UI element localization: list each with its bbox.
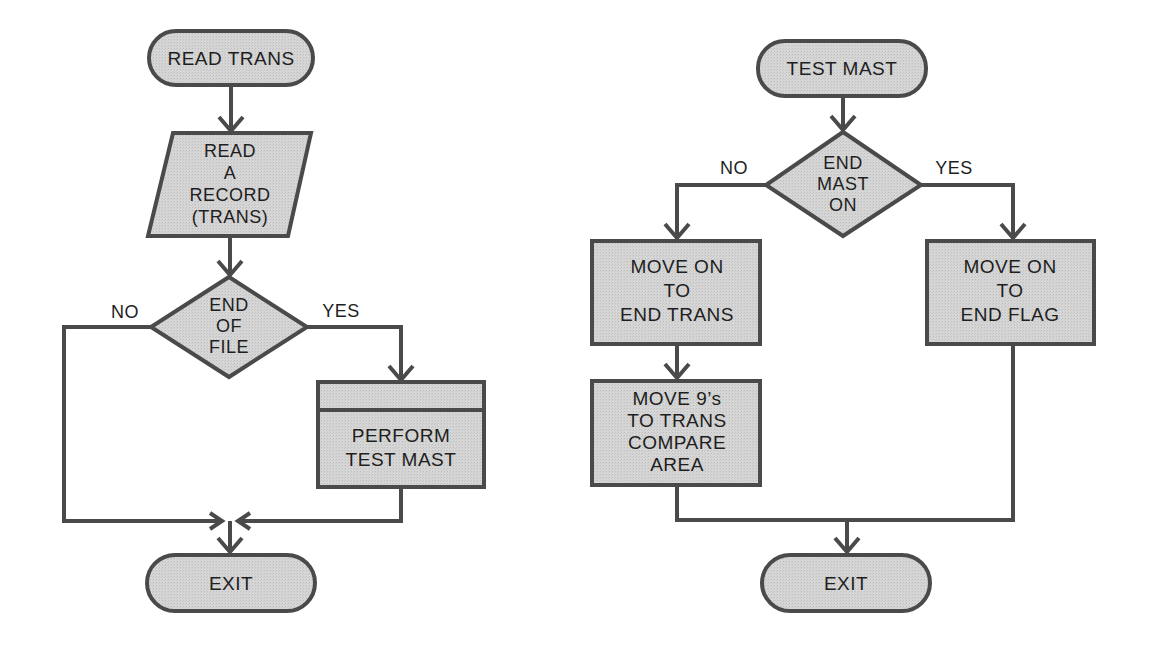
left-input-line-2: A (189, 162, 270, 184)
right-yes-label: YES (935, 158, 973, 178)
right-process-end-trans-label: MOVE ON TO END TRANS (620, 255, 734, 327)
right-decision-line-1: END (817, 153, 869, 174)
right-decision-line-2: MAST (817, 174, 869, 195)
left-arrow-input-to-decision (218, 236, 242, 275)
right-process-move-nines-label: MOVE 9’s TO TRANS COMPARE AREA (627, 388, 726, 476)
right-arrow-start-to-decision (831, 96, 855, 130)
left-input-line-1: READ (189, 140, 270, 162)
left-return-line (238, 487, 401, 529)
left-decision-line-3: FILE (209, 337, 249, 358)
right-move-nines-line-1: MOVE 9’s (627, 388, 726, 410)
right-move-nines-line-3: COMPARE (627, 432, 726, 454)
left-arrow-junction-to-exit (218, 521, 242, 552)
right-decision-label: END MAST ON (817, 153, 869, 216)
left-decision-line-2: OF (209, 316, 249, 337)
left-exit-label: EXIT (209, 573, 253, 594)
left-yes-branch-line (307, 327, 413, 380)
right-exit-label: EXIT (824, 573, 868, 594)
left-predefined-line-2: TEST MAST (346, 448, 457, 472)
left-input-line-3: RECORD (189, 184, 270, 206)
right-end-flag-line-1: MOVE ON (960, 255, 1059, 279)
right-process-end-flag-label: MOVE ON TO END FLAG (960, 255, 1059, 327)
left-input-label: READ A RECORD (TRANS) (189, 140, 270, 228)
left-decision-line-1: END (209, 295, 249, 316)
right-end-trans-line-1: MOVE ON (620, 255, 734, 279)
left-decision-label: END OF FILE (209, 295, 249, 358)
left-input-line-4: (TRANS) (189, 206, 270, 228)
right-yes-branch-line (921, 185, 1025, 238)
right-start-label: TEST MAST (787, 58, 898, 79)
right-no-branch-line (665, 185, 766, 238)
right-end-trans-line-3: END TRANS (620, 303, 734, 327)
left-predefined-label: PERFORM TEST MAST (346, 424, 457, 472)
left-yes-label: YES (322, 301, 360, 321)
right-arrow-end-trans-to-move-nines (665, 344, 689, 378)
left-no-label: NO (111, 302, 139, 322)
left-arrow-start-to-input (219, 85, 243, 131)
right-end-flag-line-3: END FLAG (960, 303, 1059, 327)
right-decision-line-3: ON (817, 195, 869, 216)
left-start-label: READ TRANS (167, 48, 294, 69)
right-end-flag-line-2: TO (960, 279, 1059, 303)
right-arrow-merge-to-exit (835, 520, 859, 552)
left-predefined-line-1: PERFORM (346, 424, 457, 448)
right-no-label: NO (720, 158, 748, 178)
right-end-trans-line-2: TO (620, 279, 734, 303)
right-move-nines-line-2: TO TRANS (627, 410, 726, 432)
right-move-nines-line-4: AREA (627, 454, 726, 476)
